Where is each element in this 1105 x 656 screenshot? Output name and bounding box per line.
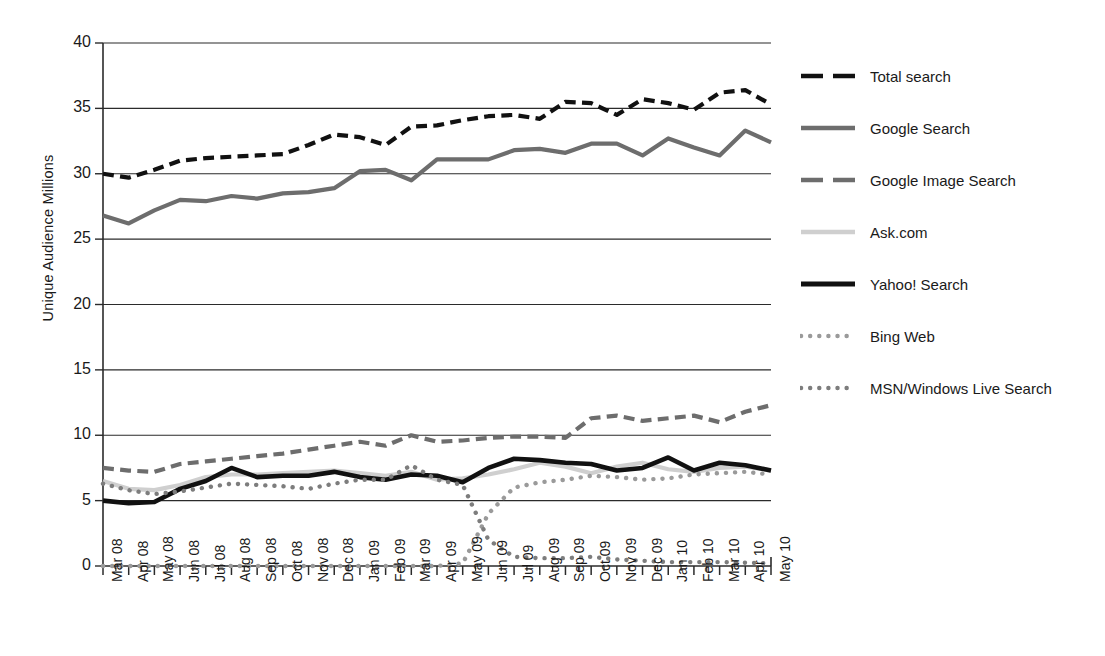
y-tick-label: 30 (47, 164, 91, 182)
y-tick-label: 35 (47, 98, 91, 116)
x-tick-label: May 09 (469, 536, 485, 582)
x-tick-label: Apr 08 (135, 541, 151, 582)
series-line-1 (103, 131, 771, 224)
x-tick-label: May 08 (160, 536, 176, 582)
x-tick-label: Jul 08 (212, 545, 228, 582)
x-tick-label: Feb 09 (392, 538, 408, 582)
x-tick-label: Apr 10 (751, 541, 767, 582)
x-tick-label: Apr 09 (443, 541, 459, 582)
legend-label: Bing Web (870, 328, 935, 345)
series-line-5 (103, 472, 771, 566)
series-line-0 (103, 90, 771, 178)
legend-swatch-icon (800, 69, 856, 83)
legend-item-6[interactable]: MSN/Windows Live Search (800, 362, 1100, 414)
y-tick-label: 20 (47, 295, 91, 313)
x-tick-label: Jun 08 (186, 540, 202, 582)
y-tick-label: 5 (47, 491, 91, 509)
legend-label: Ask.com (870, 224, 928, 241)
x-tick-label: Nov 09 (623, 538, 639, 582)
line-chart: Unique Audience Millions 051015202530354… (0, 0, 1105, 656)
x-tick-label: Aug 08 (237, 538, 253, 582)
y-tick-label: 10 (47, 425, 91, 443)
x-tick-label: Jan 09 (366, 540, 382, 582)
x-tick-label: Nov 08 (315, 538, 331, 582)
legend-label: Yahoo! Search (870, 276, 968, 293)
legend-item-0[interactable]: Total search (800, 50, 1100, 102)
legend-item-2[interactable]: Google Image Search (800, 154, 1100, 206)
y-tick-label: 15 (47, 360, 91, 378)
legend-swatch-icon (800, 329, 856, 343)
x-tick-label: Dec 09 (649, 538, 665, 582)
legend-item-3[interactable]: Ask.com (800, 206, 1100, 258)
x-tick-label: Mar 09 (417, 538, 433, 582)
legend-label: Google Image Search (870, 172, 1016, 189)
x-tick-label: Mar 10 (726, 538, 742, 582)
x-tick-label: Sep 09 (571, 538, 587, 582)
x-tick-label: Jul 09 (520, 545, 536, 582)
x-tick-label: Aug 09 (546, 538, 562, 582)
x-tick-label: Sep 08 (263, 538, 279, 582)
series-line-2 (103, 405, 771, 472)
legend-swatch-icon (800, 225, 856, 239)
legend-swatch-icon (800, 121, 856, 135)
legend-swatch-icon (800, 173, 856, 187)
x-tick-label: Jan 10 (674, 540, 690, 582)
legend-label: Google Search (870, 120, 970, 137)
legend-swatch-icon (800, 381, 856, 395)
legend-item-4[interactable]: Yahoo! Search (800, 258, 1100, 310)
legend-label: Total search (870, 68, 951, 85)
legend-item-5[interactable]: Bing Web (800, 310, 1100, 362)
x-tick-label: Jun 09 (494, 540, 510, 582)
chart-legend: Total searchGoogle SearchGoogle Image Se… (800, 50, 1100, 414)
legend-label: MSN/Windows Live Search (870, 380, 1052, 397)
y-tick-label: 40 (47, 33, 91, 51)
x-tick-label: Oct 08 (289, 541, 305, 582)
legend-item-1[interactable]: Google Search (800, 102, 1100, 154)
y-tick-label: 25 (47, 229, 91, 247)
y-tick-label: 0 (47, 556, 91, 574)
x-tick-label: Oct 09 (597, 541, 613, 582)
legend-swatch-icon (800, 277, 856, 291)
x-tick-label: Feb 10 (700, 538, 716, 582)
x-tick-label: Dec 08 (340, 538, 356, 582)
x-tick-label: Mar 08 (109, 538, 125, 582)
x-tick-label: May 10 (777, 536, 793, 582)
